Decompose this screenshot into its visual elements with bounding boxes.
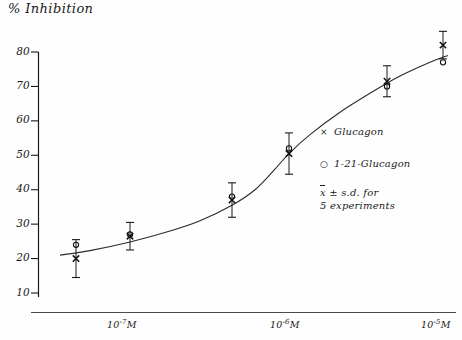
error-bars xyxy=(72,31,447,277)
y-tick-marks xyxy=(31,52,39,293)
glucagon-1-21-circle-marker xyxy=(440,60,445,65)
data-markers xyxy=(73,42,446,262)
chart-figure: % Inhibition 80 70 60 50 40 30 20 10 10-… xyxy=(0,0,462,340)
plot-area xyxy=(0,0,462,340)
axis-lines xyxy=(31,52,456,313)
